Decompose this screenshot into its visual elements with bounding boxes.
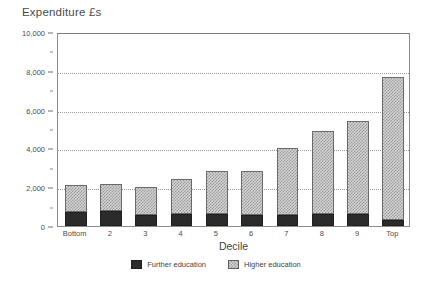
x-tick-label-3: 3 [143,229,147,238]
y-tick-label-0: 0 [41,223,45,232]
bar-group[interactable] [382,32,404,226]
y-tick-label-8000: 8,000 [26,67,45,76]
bar-group[interactable] [65,32,87,226]
bar-group[interactable] [171,32,193,226]
bar-segment-higher-education[interactable] [206,171,228,215]
bar-segment-further-education[interactable] [277,215,299,226]
chart-legend: Further educationHigher education [0,260,432,269]
legend-label: Further education [147,260,206,269]
bar-segment-higher-education[interactable] [135,187,157,215]
bar-segment-higher-education[interactable] [347,121,369,214]
x-tick-label-8: 8 [320,229,324,238]
bar-group[interactable] [277,32,299,226]
y-tick-major-4000 [48,149,53,150]
y-tick-major-6000 [48,110,53,111]
expenditure-decile-chart: Expenditure £s 02,0004,0006,0008,00010,0… [0,0,432,287]
plot-area [57,33,410,227]
x-tick-label-9: 9 [355,229,359,238]
y-tick-major-8000 [48,71,53,72]
bar-segment-further-education[interactable] [312,214,334,226]
bar-segment-further-education[interactable] [382,220,404,226]
x-tick-label-5: 5 [214,229,218,238]
bar-segment-higher-education[interactable] [382,77,404,221]
bar-segment-higher-education[interactable] [312,131,334,214]
y-tick-minor-5000 [50,130,53,131]
y-tick-major-2000 [48,188,53,189]
bar-segment-further-education[interactable] [100,211,122,226]
x-axis-title: Decile [57,240,410,252]
x-tick-label-7: 7 [284,229,288,238]
plot-inner [58,34,409,226]
legend-item[interactable]: Further education [131,260,206,269]
y-tick-label-2000: 2,000 [26,184,45,193]
bar-segment-further-education[interactable] [241,215,263,226]
bar-group[interactable] [100,32,122,226]
x-tick-label-2: 2 [108,229,112,238]
bar-group[interactable] [347,32,369,226]
bar-group[interactable] [241,32,263,226]
bar-segment-further-education[interactable] [65,212,87,226]
y-tick-major-10000 [48,33,53,34]
bar-segment-higher-education[interactable] [65,185,87,212]
bar-segment-higher-education[interactable] [277,148,299,215]
y-tick-label-4000: 4,000 [26,145,45,154]
chart-title: Expenditure £s [22,6,102,18]
higher-education-swatch [228,260,239,269]
y-tick-label-10000: 10,000 [22,29,45,38]
further-education-swatch [131,260,142,269]
y-tick-label-6000: 6,000 [26,106,45,115]
x-tick-label-6: 6 [249,229,253,238]
bar-group[interactable] [206,32,228,226]
bar-segment-further-education[interactable] [171,214,193,226]
bar-group[interactable] [135,32,157,226]
y-tick-minor-9000 [50,52,53,53]
bar-segment-further-education[interactable] [347,214,369,226]
x-tick-label-top: Top [386,229,398,238]
y-axis: 02,0004,0006,0008,00010,000 [0,33,53,227]
x-tick-label-4: 4 [178,229,182,238]
legend-label: Higher education [244,260,301,269]
bar-segment-further-education[interactable] [135,215,157,226]
bar-segment-higher-education[interactable] [100,184,122,211]
y-tick-minor-7000 [50,91,53,92]
legend-item[interactable]: Higher education [228,260,301,269]
x-tick-label-bottom: Bottom [63,229,87,238]
y-tick-minor-1000 [50,207,53,208]
y-tick-major-0 [48,227,53,228]
y-tick-minor-3000 [50,168,53,169]
bar-segment-further-education[interactable] [206,214,228,226]
bar-segment-higher-education[interactable] [171,179,193,214]
bar-group[interactable] [312,32,334,226]
bar-segment-higher-education[interactable] [241,171,263,215]
